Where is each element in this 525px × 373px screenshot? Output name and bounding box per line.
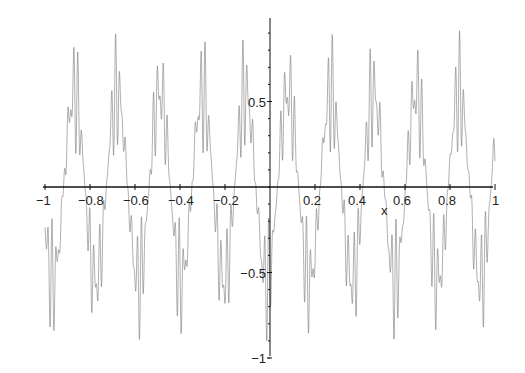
x-tick-label: 0.2 — [303, 193, 321, 208]
x-axis-label: x — [381, 203, 388, 218]
plot-canvas: −1−0.8−0.6−0.4−0.20.20.40.60.81 0.5−0.5−… — [0, 0, 525, 373]
x-tick-label: −0.6 — [123, 193, 149, 208]
y-tick-label: 0.5 — [248, 95, 266, 110]
y-tick-label: −1 — [251, 351, 266, 366]
x-tick-label: 0.6 — [393, 193, 411, 208]
x-tick-label: 0.4 — [348, 193, 366, 208]
x-tick-label: 1 — [492, 193, 499, 208]
x-tick-label: −0.2 — [213, 193, 239, 208]
x-tick-label: 0.8 — [438, 193, 456, 208]
x-tick-label: −1 — [36, 193, 51, 208]
x-tick-label: −0.8 — [78, 193, 104, 208]
x-tick-label: −0.4 — [168, 193, 194, 208]
y-tick-label: −0.5 — [240, 266, 266, 281]
